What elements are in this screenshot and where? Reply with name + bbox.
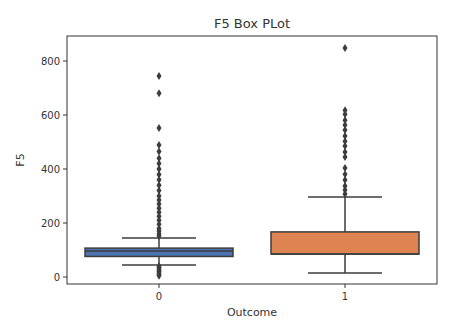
chart-title: F5 Box PLot bbox=[214, 16, 290, 31]
x-axis-label: Outcome bbox=[227, 306, 277, 319]
outlier-marker bbox=[157, 124, 162, 132]
y-tick-label: 0 bbox=[54, 272, 60, 283]
outlier-marker bbox=[157, 72, 162, 80]
outlier-marker bbox=[343, 153, 348, 161]
x-tick-label: 0 bbox=[156, 291, 162, 302]
y-tick-label: 800 bbox=[41, 56, 60, 67]
box-group-1 bbox=[271, 44, 419, 273]
outlier-marker bbox=[157, 89, 162, 97]
iqr-box bbox=[271, 232, 419, 254]
iqr-box bbox=[85, 248, 233, 256]
y-axis: 0200400600800 bbox=[41, 56, 67, 283]
y-tick-label: 400 bbox=[41, 164, 60, 175]
y-axis-label: F5 bbox=[14, 153, 27, 166]
plot-area bbox=[85, 44, 419, 280]
box-group-0 bbox=[85, 72, 233, 280]
x-tick-label: 1 bbox=[342, 291, 348, 302]
x-axis: 01 bbox=[156, 284, 348, 302]
box-plot-chart: F5 Box PLot 0200400600800 01 F5 Outcome bbox=[0, 0, 456, 333]
outlier-marker bbox=[343, 44, 348, 52]
y-tick-label: 200 bbox=[41, 218, 60, 229]
y-tick-label: 600 bbox=[41, 110, 60, 121]
